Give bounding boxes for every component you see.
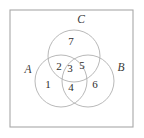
region-label-6: 6: [92, 78, 98, 90]
region-label-7: 7: [68, 35, 74, 47]
region-label-3: 3: [67, 62, 73, 74]
region-label-5: 5: [79, 59, 85, 71]
set-label-b: B: [117, 61, 124, 73]
venn-diagram-figure: A B C 7 2 3 5 1 4 6: [0, 0, 144, 138]
set-label-a: A: [23, 63, 32, 75]
venn-diagram-canvas: A B C 7 2 3 5 1 4 6: [0, 0, 144, 138]
region-label-4: 4: [68, 81, 74, 93]
venn-circle-c: [48, 30, 100, 82]
region-label-1: 1: [45, 78, 51, 90]
set-label-c: C: [77, 13, 85, 25]
region-label-2: 2: [56, 60, 62, 72]
